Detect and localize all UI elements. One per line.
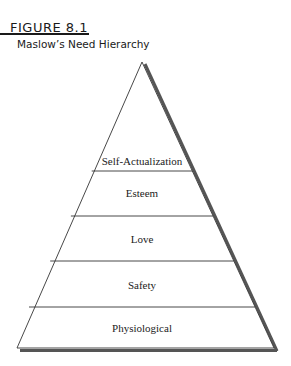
level-esteem: Esteem <box>126 187 159 199</box>
level-physiological: Physiological <box>112 322 172 334</box>
pyramid-diagram: Self-Actualization Esteem Love Safety Ph… <box>0 0 291 366</box>
pyramid-outline <box>17 62 274 348</box>
level-love: Love <box>131 233 154 245</box>
level-self-actualization: Self-Actualization <box>102 155 183 167</box>
level-safety: Safety <box>128 279 157 291</box>
